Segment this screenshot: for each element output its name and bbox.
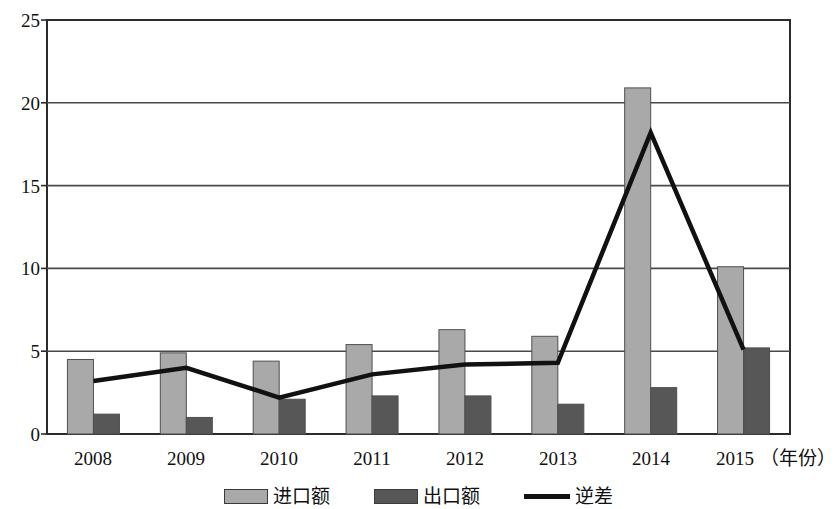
x-tick-label-2013: 2013 — [513, 449, 603, 468]
bar-import-2011 — [346, 345, 372, 434]
bar-import-2015 — [718, 267, 744, 434]
bar-export-2012 — [465, 396, 491, 434]
legend-label-deficit: 逆差 — [575, 487, 613, 506]
bar-export-2009 — [186, 417, 212, 434]
bar-import-2013 — [532, 336, 558, 434]
x-tick-label-2011: 2011 — [327, 449, 417, 468]
bar-export-2013 — [558, 404, 584, 434]
x-tick-label-2010: 2010 — [234, 449, 324, 468]
x-axis-unit-label: （年份） — [760, 449, 836, 468]
x-tick-label-2012: 2012 — [420, 449, 510, 468]
legend-swatch-import-icon — [224, 489, 268, 504]
bar-export-2008 — [93, 414, 119, 434]
bar-export-2015 — [744, 348, 770, 434]
chart-container: 25 20 15 10 5 0 2008 2009 2010 201 — [0, 0, 836, 509]
legend-label-import: 进口额 — [273, 487, 330, 506]
legend-item-import[interactable]: 进口额 — [224, 487, 330, 506]
chart-legend: 进口额 出口额 逆差 — [0, 484, 836, 509]
x-tick-label-2014: 2014 — [606, 449, 696, 468]
x-tick-label-2008: 2008 — [48, 449, 138, 468]
bar-export-2011 — [372, 396, 398, 434]
bar-export-2014 — [651, 388, 677, 434]
bars-layer — [67, 88, 769, 434]
bar-export-2010 — [279, 399, 305, 434]
legend-item-deficit[interactable]: 逆差 — [524, 487, 613, 506]
legend-item-export[interactable]: 出口额 — [374, 487, 480, 506]
legend-swatch-export-icon — [374, 489, 418, 504]
legend-line-deficit-icon — [524, 494, 570, 499]
bar-import-2008 — [67, 359, 93, 434]
bar-import-2009 — [160, 353, 186, 434]
x-tick-label-2009: 2009 — [141, 449, 231, 468]
gridlines — [47, 103, 790, 351]
bar-import-2012 — [439, 330, 465, 434]
legend-label-export: 出口额 — [423, 487, 480, 506]
plot-area — [0, 0, 836, 509]
